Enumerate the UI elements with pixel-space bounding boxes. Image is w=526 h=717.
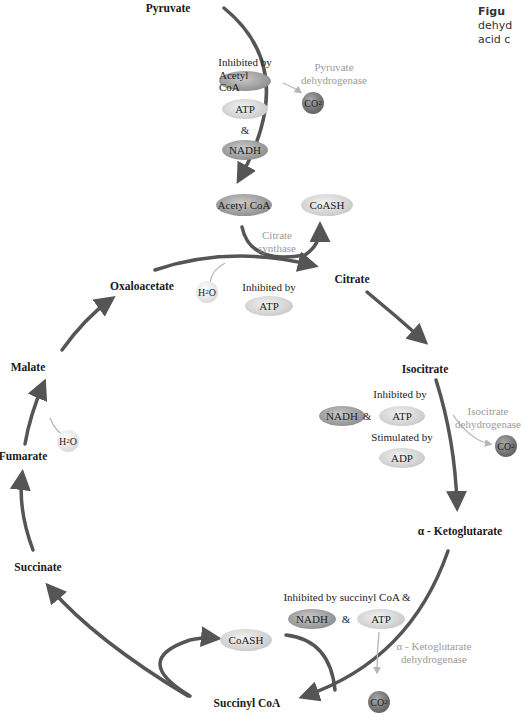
arrow-coash-release	[286, 635, 335, 690]
figure-caption: Figu dehyd acid c	[478, 5, 512, 47]
pdh-inhibitor-atp: ATP	[222, 99, 268, 119]
enzyme-citrate-synthase: Citrate synthase	[258, 229, 296, 255]
metabolite-citrate: Citrate	[334, 273, 369, 285]
caption-title: Figu	[478, 5, 505, 18]
arrow-isocitrate-to-akg	[436, 380, 457, 505]
akgdh-inhibitor-nadh: NADH	[288, 609, 336, 629]
caption-line-2: dehyd	[478, 19, 512, 33]
thin-arrow-pyruvate-co2	[283, 83, 300, 92]
acetyl-coa: Acetyl CoA	[216, 194, 272, 216]
enzyme-pyruvate-dehydrogenase: Pyruvate dehydrogenase	[301, 61, 367, 87]
coash-bottom: CoASH	[220, 629, 272, 651]
idh-amp: &	[363, 410, 372, 422]
arrow-citrate-to-isocitrate	[367, 292, 423, 340]
metabolite-alpha-ketoglutarate: α - Ketoglutarate	[418, 525, 502, 537]
idh-inhibited-label: Inhibited by	[373, 388, 426, 400]
idh-stimulator-adp: ADP	[379, 448, 425, 468]
metabolite-succinate: Succinate	[14, 561, 61, 573]
cs-inhibitor-atp: ATP	[245, 296, 293, 316]
enzyme-akg-dehydrogenase: α - Ketoglutarate dehydrogenase	[397, 640, 472, 666]
idh-stimulated-label: Stimulated by	[371, 431, 432, 443]
caption-line-3: acid c	[478, 33, 512, 47]
akgdh-inhibited-label: Inhibited by succinyl CoA &	[283, 591, 410, 603]
h2o-fumarate: H2O	[57, 430, 79, 452]
metabolite-oxaloacetate: Oxaloacetate	[110, 280, 174, 292]
metabolite-fumarate: Fumarate	[0, 450, 47, 462]
akgdh-amp: &	[342, 613, 351, 625]
arrow-malate-to-oxaloacetate	[62, 300, 110, 350]
pdh-amp: &	[241, 124, 250, 136]
co2-isocitrate: CO2	[495, 435, 517, 457]
idh-inhibitor-atp: ATP	[379, 406, 425, 426]
cs-inhibited-label: Inhibited by	[242, 281, 295, 293]
arrow-succinate-to-fumarate	[21, 476, 33, 550]
thin-arrow-akg-co2	[377, 632, 379, 672]
arrow-coash-loop	[160, 638, 215, 696]
h2o-citrate: H2O	[196, 281, 218, 303]
pdh-inhibited-label: Inhibited by	[218, 56, 271, 68]
idh-inhibitor-nadh: NADH	[319, 406, 365, 426]
akgdh-inhibitor-atp: ATP	[357, 609, 405, 629]
enzyme-isocitrate-dehydrogenase: Isocitrate dehydrogenase	[455, 405, 521, 431]
coash-top: CoASH	[301, 194, 353, 216]
metabolite-malate: Malate	[11, 361, 45, 373]
co2-akg: CO2	[368, 691, 390, 713]
co2-pyruvate: CO2	[302, 92, 324, 114]
pdh-inhibitor-acetylcoa: Acetyl CoA	[219, 71, 271, 91]
metabolite-succinyl-coa: Succinyl CoA	[214, 697, 281, 709]
thin-arrow-citrate-h2o	[210, 263, 225, 282]
arrow-fumarate-to-malate	[25, 385, 43, 444]
metabolite-pyruvate: Pyruvate	[146, 2, 191, 14]
pdh-inhibitor-nadh: NADH	[222, 140, 268, 160]
metabolite-isocitrate: Isocitrate	[402, 363, 449, 375]
